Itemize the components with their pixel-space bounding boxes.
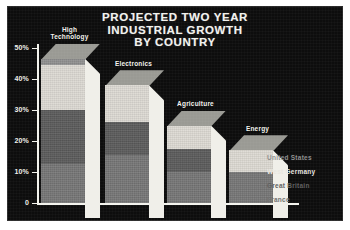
bar-segment-great-britain (41, 110, 85, 164)
y-axis-tick (32, 110, 37, 111)
bar-side-face (85, 59, 100, 218)
y-axis-tick (32, 48, 37, 49)
legend-item-west-germany[interactable]: West Germany (267, 165, 339, 179)
y-axis-tick-label: 50% (7, 44, 29, 51)
y-axis-line (37, 44, 39, 205)
legend-item-france[interactable]: France (267, 193, 339, 207)
y-axis-tick-label: 40% (7, 75, 29, 82)
chart-panel: PROJECTED TWO YEAR INDUSTRIAL GROWTH BY … (7, 6, 343, 221)
bar-top-face (229, 135, 288, 151)
y-axis-tick-label: 0 (7, 199, 29, 206)
bar-label-energy: Energy (223, 125, 292, 133)
bar-segment-france (105, 155, 149, 203)
bar-segment-west-germany (167, 126, 211, 149)
y-axis-tick (32, 203, 37, 204)
y-axis-tick-label: 10% (7, 168, 29, 175)
bar-segment-west-germany (41, 65, 85, 110)
bar-high-technology[interactable] (41, 59, 85, 203)
bar-label-agriculture: Agriculture (161, 100, 230, 108)
bar-side-face (211, 126, 226, 219)
y-axis-tick (32, 141, 37, 142)
bar-electronics[interactable] (105, 85, 149, 203)
chart-screenshot: PROJECTED TWO YEAR INDUSTRIAL GROWTH BY … (0, 0, 350, 230)
y-axis-tick-label: 20% (7, 137, 29, 144)
bar-top-face (105, 70, 164, 86)
bar-segment-united-states (41, 59, 85, 65)
bar-segment-west-germany (105, 85, 149, 122)
bar-segment-france (167, 172, 211, 203)
chart-legend: United StatesWest GermanyGreat BritainFr… (267, 151, 339, 207)
y-axis-tick-label: 30% (7, 106, 29, 113)
legend-item-great-britain[interactable]: Great Britain (267, 179, 339, 193)
bar-label-high-technology: High Technology (35, 26, 104, 41)
y-axis-tick (32, 79, 37, 80)
bar-segment-great-britain (167, 149, 211, 172)
bar-label-electronics: Electronics (99, 60, 168, 68)
legend-item-united-states[interactable]: United States (267, 151, 339, 165)
bar-agriculture[interactable] (167, 126, 211, 204)
y-axis-tick (32, 172, 37, 173)
x-axis-line (37, 203, 299, 205)
bar-top-face (167, 111, 226, 127)
bar-segment-france (41, 164, 85, 203)
bar-segment-great-britain (105, 122, 149, 155)
chart-title-line-1: PROJECTED TWO YEAR (7, 11, 343, 24)
